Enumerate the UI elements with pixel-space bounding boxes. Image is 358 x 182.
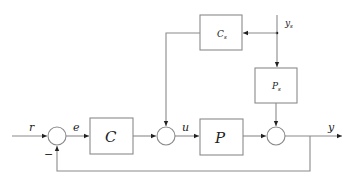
sum-error	[48, 127, 66, 145]
cs-to-sum-wire	[166, 33, 200, 126]
signal-ys-label: ys	[284, 18, 293, 29]
feedback-minus-sign: −	[44, 148, 53, 161]
signal-y-label: y	[327, 121, 335, 134]
signal-e-label: e	[73, 121, 80, 134]
block-diagram: r e C u P y − ys	[0, 0, 358, 182]
controller-c-label: C	[105, 128, 117, 146]
signal-r-label: r	[29, 121, 35, 134]
sum-control	[157, 127, 175, 145]
sum-output	[267, 127, 285, 145]
plant-p-label: P	[214, 129, 226, 147]
signal-u-label: u	[182, 121, 189, 134]
